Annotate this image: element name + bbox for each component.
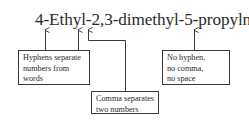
annotation-comma: Comma separates two numbers	[91, 91, 159, 114]
annotation-line: numbers from	[23, 64, 85, 75]
annotation-line: No hyphen,	[167, 53, 225, 64]
annotation-line: two numbers	[96, 105, 154, 116]
annotation-line: no space	[167, 74, 225, 85]
annotation-line: words	[23, 74, 85, 85]
annotation-line: no comma,	[167, 64, 225, 75]
annotation-line: Comma separates	[96, 94, 154, 105]
annotation-line: Hyphens separate	[23, 53, 85, 64]
annotation-no-separator: No hyphen, no comma, no space	[162, 50, 230, 85]
arrow-comma-icon	[89, 30, 126, 91]
annotation-hyphens: Hyphens separate numbers from words	[18, 50, 90, 85]
